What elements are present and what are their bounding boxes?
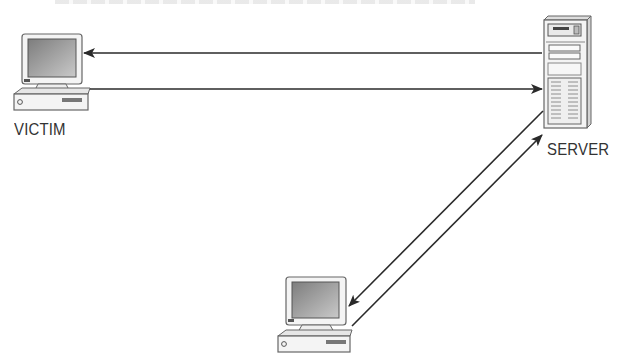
- network-diagram: VICTIM SERVER: [0, 0, 624, 361]
- diagram-canvas: [0, 0, 624, 361]
- arrow-attacker-to-server: [352, 135, 542, 326]
- victim-label: VICTIM: [14, 120, 66, 140]
- victim-computer-icon: [14, 34, 90, 110]
- server-tower-icon: [544, 16, 591, 128]
- arrow-server-to-attacker: [349, 111, 543, 306]
- server-label: SERVER: [547, 140, 609, 160]
- attacker-computer-icon: [278, 277, 352, 352]
